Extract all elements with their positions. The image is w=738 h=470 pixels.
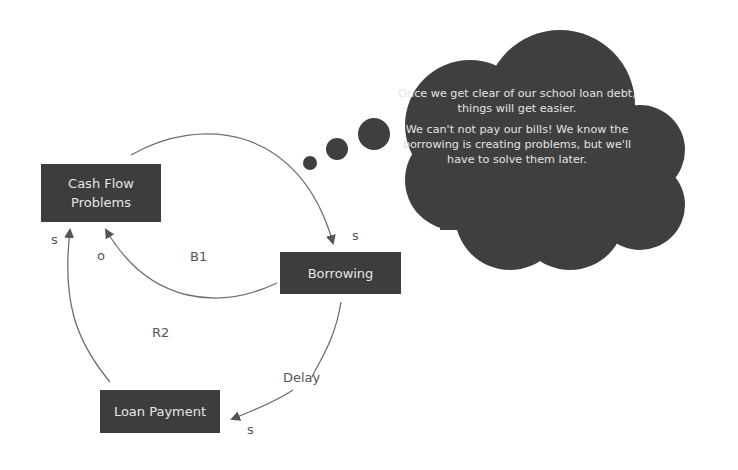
thought-bubble-text: Once we get clear of our school loan deb… (392, 86, 642, 173)
node-loan-payment-label: Loan Payment (114, 402, 206, 421)
thought-paragraph-2: We can't not pay our bills! We know the … (392, 122, 642, 167)
polarity-cash-to-borrowing: s (352, 229, 359, 243)
link-cashflow-to-borrowing (131, 134, 333, 243)
thought-paragraph-1: Once we get clear of our school loan deb… (392, 86, 642, 116)
node-cash-flow-problems[interactable]: Cash Flow Problems (41, 164, 161, 222)
loop-label-r2: R2 (152, 326, 169, 340)
delay-label: Delay (283, 371, 320, 385)
polarity-borrowing-to-loan: s (247, 423, 254, 437)
node-borrowing[interactable]: Borrowing (280, 252, 401, 294)
loop-label-b1: B1 (190, 250, 207, 264)
node-cash-flow-line1: Cash Flow (68, 174, 134, 193)
polarity-borrowing-to-cash: o (97, 249, 105, 263)
causal-loop-diagram: Cash Flow Problems Borrowing Loan Paymen… (0, 0, 738, 470)
node-cash-flow-line2: Problems (71, 193, 131, 212)
node-loan-payment[interactable]: Loan Payment (100, 390, 220, 433)
link-borrowing-to-loanpayment (232, 302, 341, 419)
node-borrowing-label: Borrowing (308, 264, 374, 283)
thought-dots (303, 118, 390, 170)
polarity-loan-to-cash: s (51, 233, 58, 247)
